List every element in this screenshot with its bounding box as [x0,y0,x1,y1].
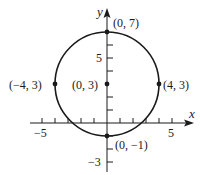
x-axis: x −5 5 [30,106,195,140]
point-label-right: (4, 3) [163,78,189,92]
point-bottom [105,134,110,139]
point-right [157,82,162,87]
point-left [53,82,58,87]
x-axis-label: x [188,106,195,121]
x-tick-label-neg5: −5 [34,126,47,140]
y-tick-label-neg3: −3 [88,155,101,169]
y-axis-ticks [107,45,113,162]
y-tick-label-5: 5 [96,51,102,65]
point-label-bottom: (0, −1) [115,138,148,152]
circle-diagram: x −5 5 y 5 −3 (0, 7) (0, 3) (−4, 3) (4 [0,0,200,175]
y-axis-label: y [95,4,103,19]
point-label-top: (0, 7) [113,16,139,30]
point-top [105,30,110,35]
point-label-center: (0, 3) [72,78,98,92]
point-center [105,82,110,87]
point-label-left: (−4, 3) [9,78,42,92]
x-tick-label-5: 5 [168,126,174,140]
